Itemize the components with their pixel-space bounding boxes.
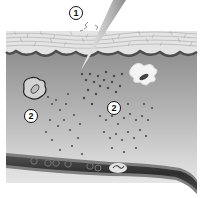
dendritic-cell [129, 63, 157, 85]
immune-cell-left [24, 77, 46, 99]
step-2-label-right: 2 [107, 101, 121, 115]
skin-diagram-illustration [0, 0, 203, 198]
step-2-label-left: 2 [24, 109, 38, 123]
step-1-label: 1 [69, 6, 83, 20]
diagram: 1 2 2 [0, 0, 203, 198]
